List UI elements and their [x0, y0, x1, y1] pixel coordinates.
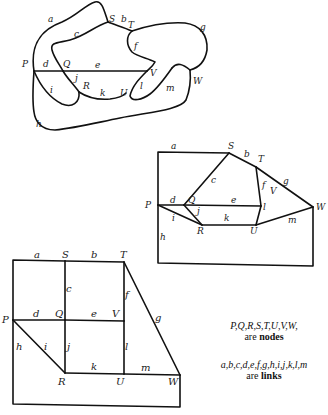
- label-l: l: [140, 81, 143, 91]
- label-d: d: [33, 308, 39, 319]
- label-a: a: [34, 249, 40, 260]
- label-g: g: [200, 22, 206, 32]
- label-c: c: [211, 175, 216, 185]
- nodes-list: P,Q,R,S,T,U,V,W,: [200, 320, 328, 331]
- label-Q: Q: [63, 59, 71, 69]
- link-m: [172, 64, 190, 70]
- label-W: W: [316, 202, 326, 212]
- label-U: U: [250, 226, 258, 236]
- link-b: [65, 261, 124, 262]
- links-list: a,b,c,d,e,f,g,h,i,j,k,l,m: [200, 359, 328, 370]
- label-h: h: [16, 341, 22, 352]
- label-g: g: [155, 312, 161, 323]
- link-i: [34, 71, 79, 105]
- nodes-legend: P,Q,R,S,T,U,V,W, are nodes: [200, 320, 328, 342]
- links-caption: are links: [200, 370, 328, 381]
- label-f: f: [133, 41, 139, 51]
- label-i: i: [172, 213, 175, 223]
- label-P: P: [144, 200, 152, 210]
- straightened-graph: a S b T g c f V P d Q e l W j i k m R U …: [144, 141, 326, 266]
- label-b: b: [121, 14, 127, 24]
- label-a: a: [171, 141, 176, 151]
- links-legend: a,b,c,d,e,f,g,h,i,j,k,l,m are links: [200, 359, 328, 381]
- label-d: d: [43, 59, 49, 69]
- link-i: [158, 205, 202, 225]
- label-Q: Q: [55, 308, 63, 319]
- label-k: k: [91, 361, 97, 372]
- link-f: [128, 31, 156, 71]
- label-j: j: [195, 206, 200, 216]
- label-U: U: [120, 88, 128, 98]
- links-suffix: are: [246, 370, 261, 381]
- label-j: j: [73, 73, 78, 83]
- label-S: S: [109, 14, 115, 24]
- links-word: links: [261, 370, 282, 381]
- label-h: h: [160, 232, 166, 242]
- label-W: W: [193, 76, 203, 86]
- label-k: k: [100, 88, 105, 98]
- curved-map: a S b T g c f P d Q e V j R i k U l m W …: [21, 2, 207, 130]
- label-m: m: [141, 362, 150, 373]
- label-R: R: [196, 226, 204, 236]
- label-P: P: [21, 59, 29, 69]
- link-b: [229, 153, 256, 167]
- link-g: [124, 262, 180, 375]
- link-e: [65, 320, 124, 321]
- label-i: i: [50, 85, 53, 95]
- label-m: m: [288, 215, 297, 225]
- label-V: V: [150, 68, 158, 78]
- label-P: P: [1, 314, 9, 325]
- link-g: [132, 23, 207, 70]
- label-b: b: [91, 249, 97, 260]
- label-m: m: [166, 83, 175, 93]
- nodes-caption: are nodes: [200, 331, 328, 342]
- label-S: S: [228, 141, 234, 151]
- label-e: e: [231, 195, 236, 205]
- link-f: [256, 167, 261, 206]
- label-T: T: [128, 20, 135, 30]
- link-e: [184, 205, 261, 206]
- label-V: V: [112, 308, 121, 319]
- label-l: l: [125, 341, 128, 352]
- label-T: T: [258, 154, 265, 164]
- label-W: W: [168, 376, 179, 387]
- label-R: R: [57, 376, 66, 387]
- link-m: [124, 374, 180, 375]
- label-T: T: [120, 249, 128, 260]
- label-V: V: [270, 186, 278, 196]
- label-c: c: [74, 29, 79, 39]
- label-Q: Q: [188, 195, 196, 205]
- label-b: b: [244, 149, 250, 159]
- label-a: a: [48, 14, 53, 24]
- label-l: l: [263, 202, 266, 212]
- nodes-suffix: are: [244, 331, 259, 342]
- label-R: R: [82, 81, 90, 91]
- label-g: g: [283, 176, 289, 186]
- label-e: e: [95, 60, 100, 70]
- label-e: e: [91, 308, 97, 319]
- label-f: f: [124, 289, 131, 300]
- label-h: h: [36, 119, 42, 129]
- link-k: [65, 373, 124, 374]
- label-U: U: [116, 376, 125, 387]
- label-c: c: [66, 283, 72, 294]
- grid-graph: a S b T c f g P d Q e V h i j l k m R U …: [1, 249, 180, 407]
- label-f: f: [261, 180, 267, 190]
- nodes-word: nodes: [259, 331, 283, 342]
- label-S: S: [62, 249, 69, 260]
- label-d: d: [170, 195, 176, 205]
- link-l: [256, 206, 261, 225]
- label-k: k: [224, 213, 229, 223]
- network-diagrams: a S b T g c f P d Q e V j R i k U l m W …: [0, 0, 328, 415]
- label-i: i: [44, 341, 47, 352]
